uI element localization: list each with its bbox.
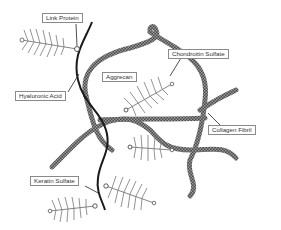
- label-aggrecan: Aggrecan: [102, 72, 137, 82]
- aggrecan-brush-4: [104, 176, 156, 210]
- aggrecan-brush-2: [124, 77, 174, 116]
- label-link-protein: Link Protein: [42, 13, 83, 23]
- aggrecan-brush-5: [48, 197, 97, 222]
- link-protein-pointer: [76, 24, 77, 46]
- aggrecan-brush-1: [20, 29, 80, 57]
- chondroitin-sulfate-pointer: [170, 58, 181, 76]
- collagen-fibril-8: [190, 158, 236, 196]
- collagen-fibril-pointer: [208, 113, 220, 125]
- diagram-canvas: [0, 0, 281, 230]
- label-keratin-sulfate: Keratin Sulfate: [30, 176, 79, 186]
- label-collagen-fibril: Collagen Fibril: [208, 125, 256, 135]
- hyaluronic-acid-pointer: [68, 74, 79, 92]
- label-chondroitin-sulfate: Chondroitin Sulfate: [168, 49, 229, 59]
- ecm-diagram: Link Protein Hyaluronic Acid Aggrecan Ch…: [0, 0, 281, 230]
- label-hyaluronic-acid: Hyaluronic Acid: [15, 91, 66, 101]
- collagen-fibril-1: [85, 27, 157, 96]
